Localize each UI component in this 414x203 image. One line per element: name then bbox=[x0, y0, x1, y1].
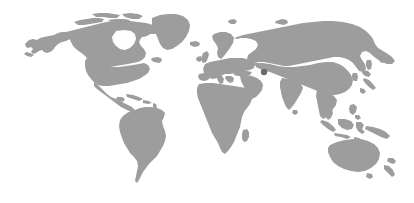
marker-group bbox=[261, 69, 267, 75]
world-map-canvas bbox=[0, 0, 414, 203]
highlighted-location-marker[interactable] bbox=[261, 69, 267, 75]
world-map-figure: Grey world map silhouette on a white bac… bbox=[0, 0, 414, 203]
